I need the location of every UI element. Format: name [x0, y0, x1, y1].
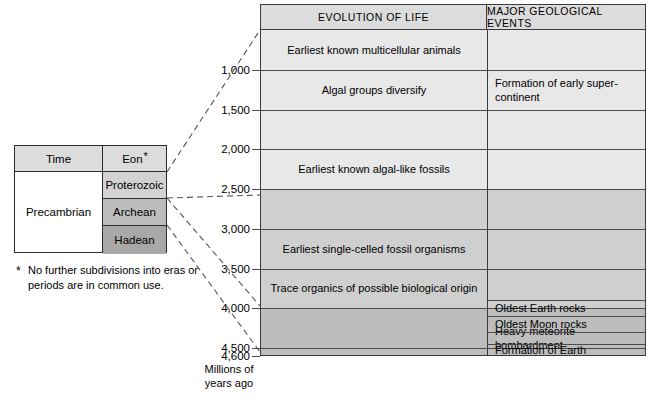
life-empty-cell: [261, 110, 487, 150]
life-empty-cell: [261, 308, 487, 348]
footnote: * No further subdivisions into eras or p…: [16, 263, 206, 292]
tick-mark-3000: [252, 229, 260, 230]
header-eon-label: Eon: [122, 153, 142, 165]
precambrian-chart: EVOLUTION OF LIFE MAJOR GEOLOGICAL EVENT…: [260, 4, 646, 356]
period-label: Precambrian: [26, 206, 91, 218]
tick-label-4000: 4,000: [221, 302, 250, 314]
header-cell-eon: Eon*: [103, 146, 166, 171]
eon-label-archean: Archean: [113, 206, 156, 218]
eon-table: Time Eon* Precambrian Proterozoic Archea…: [14, 145, 167, 253]
axis-caption: Millions of years ago: [196, 362, 262, 390]
life-empty-cell: [261, 348, 487, 356]
life-event-cell: Earliest known multicellular animals: [261, 30, 487, 70]
eon-cell-archean: Archean: [103, 199, 166, 226]
geological-event-cell: Formation of early super-continent: [488, 70, 645, 110]
footnote-text: No further subdivisions into eras or per…: [28, 263, 206, 292]
tick-mark-2000: [252, 149, 260, 150]
life-event-cell: Algal groups diversify: [261, 70, 487, 110]
time-axis: 1,0001,5002,0002,5003,0003,5004,0004,500…: [196, 4, 260, 364]
chart-header-row: EVOLUTION OF LIFE MAJOR GEOLOGICAL EVENT…: [260, 4, 646, 30]
tick-mark-2500: [252, 189, 260, 190]
tick-mark-4000: [252, 308, 260, 309]
tick-mark-1500: [252, 110, 260, 111]
tick-label-3500: 3,500: [221, 263, 250, 275]
tick-label-2500: 2,500: [221, 183, 250, 195]
life-event-cell: Earliest known algal-like fossils: [261, 149, 487, 189]
column-header-major-geological-events: MAJOR GEOLOGICAL EVENTS: [487, 5, 645, 29]
tick-label-1500: 1,500: [221, 104, 250, 116]
tick-label-2000: 2,000: [221, 143, 250, 155]
life-empty-cell: [261, 189, 487, 229]
life-event-cell: Earliest single-celled fossil organisms: [261, 229, 487, 269]
geo-row-divider: [487, 300, 645, 301]
eon-label-proterozoic: Proterozoic: [105, 179, 163, 191]
eon-cells: Proterozoic Archean Hadean: [103, 172, 166, 252]
eon-table-header-row: Time Eon*: [15, 146, 166, 172]
period-cell-precambrian: Precambrian: [15, 172, 103, 252]
tick-label-4600: 4,600: [221, 350, 250, 362]
tick-mark-3500: [252, 269, 260, 270]
eon-label-hadean: Hadean: [114, 234, 154, 246]
geological-event-cell: Oldest Earth rocks: [488, 300, 645, 316]
tick-mark-4500: [252, 348, 260, 349]
tick-mark-4600: [252, 356, 260, 357]
geological-event-cell: Formation of Earth: [488, 344, 645, 356]
eon-cell-hadean: Hadean: [103, 226, 166, 254]
footnote-marker: *: [16, 264, 21, 279]
tick-mark-1000: [252, 70, 260, 71]
geo-row-divider: [487, 70, 645, 71]
header-time-label: Time: [46, 153, 71, 165]
tick-label-1000: 1,000: [221, 64, 250, 76]
chart-plot-area: Earliest known multicellular animalsAlga…: [260, 30, 646, 356]
geo-row-divider: [487, 344, 645, 345]
life-event-cell: Trace organics of possible biological or…: [261, 269, 487, 309]
tick-label-3000: 3,000: [221, 223, 250, 235]
column-header-evolution-of-life: EVOLUTION OF LIFE: [261, 5, 487, 29]
geo-row-divider: [487, 332, 645, 333]
eon-table-body: Precambrian Proterozoic Archean Hadean: [15, 172, 166, 252]
header-cell-time: Time: [15, 146, 103, 171]
geo-row-divider: [487, 316, 645, 317]
eon-cell-proterozoic: Proterozoic: [103, 172, 166, 199]
